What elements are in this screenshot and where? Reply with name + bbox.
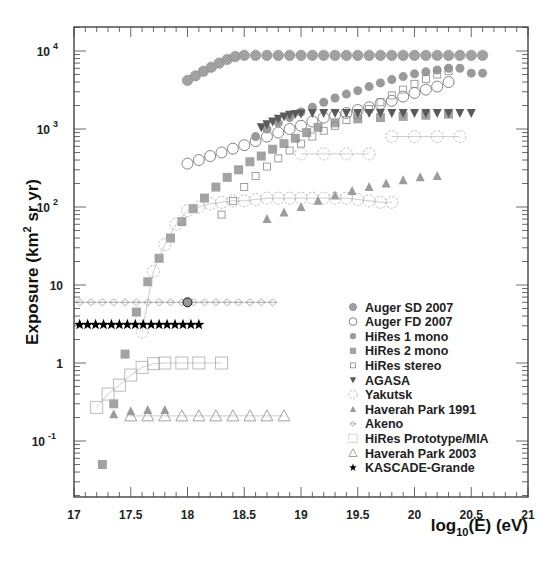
x-axis-title: log10(E) (eV) [431,516,528,538]
legend-label: Haverah Park 2003 [365,447,476,461]
legend-item: HiRes 1 mono [350,330,449,344]
legend-item: HiRes Prototype/MIA [349,432,489,446]
legend-item: Akeno [350,417,404,431]
legend-label: Akeno [365,417,404,431]
x-tick-label: 19.5 [346,508,370,522]
y-tick-label: 104 [37,41,58,59]
legend-label: KASCADE-Grande [365,461,475,475]
legend-label: AGASA [365,374,410,388]
y-axis-title: Exposure (km2 sr yr) [21,179,42,345]
legend-item: Haverah Park 1991 [350,403,476,417]
series-yakutsk-high-e-segments- [295,131,466,160]
plot-border [74,27,528,497]
x-tick-label: 17 [67,508,81,522]
legend-label: HiRes Prototype/MIA [365,432,489,446]
series-yakutsk [136,192,398,338]
legend-item: Yakutsk [349,388,413,402]
x-tick-label: 18.5 [233,508,257,522]
series-kascade-grande [74,319,204,330]
legend-item: HiRes stereo [351,359,442,373]
legend-item: KASCADE-Grande [349,461,475,475]
x-tick-label: 19 [294,508,308,522]
legend-label: HiRes stereo [365,359,442,373]
legend-label: HiRes 2 mono [365,344,449,358]
legend-item: HiRes 2 mono [350,344,449,358]
y-tick-label: 1 [56,357,63,371]
legend-label: Auger FD 2007 [365,315,453,329]
legend-label: Haverah Park 1991 [365,403,476,417]
x-tick-label: 17.5 [119,508,143,522]
x-tick-label: 18 [181,508,195,522]
legend-item: AGASA [350,374,410,388]
series-auger-sd-2007 [182,50,488,85]
series-akeno [75,299,278,306]
auger-sd-lowE-marker [183,298,192,307]
legend-item: Haverah Park 2003 [349,447,476,461]
legend: Auger SD 2007Auger FD 2007HiRes 1 monoHi… [349,301,489,476]
y-tick-label: 103 [37,119,58,137]
y-tick-label: 10-1 [32,431,56,449]
legend-label: Yakutsk [365,388,412,402]
legend-label: HiRes 1 mono [365,330,449,344]
legend-label: Auger SD 2007 [365,301,453,315]
plot-frame [74,27,528,497]
plot-svg: 1717.51818.51919.52020.52110410310210110… [0,0,556,562]
exposure-chart: 1717.51818.51919.52020.52110410310210110… [0,0,556,562]
legend-item: Auger FD 2007 [349,315,452,329]
series-hires-1-mono [251,64,487,141]
x-tick-label: 20 [408,508,422,522]
legend-item: Auger SD 2007 [349,301,453,315]
y-tick-label: 10 [50,279,64,293]
